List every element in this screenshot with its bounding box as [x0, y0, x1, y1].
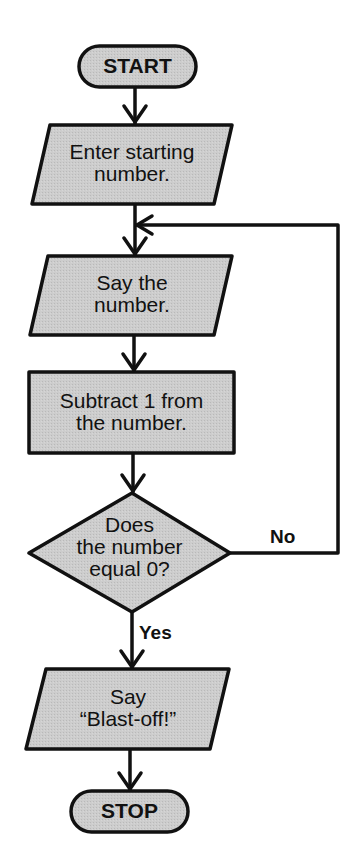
no-branch-label: No: [270, 527, 295, 547]
say-number-line-2: number.: [40, 294, 224, 316]
yes-branch-label: Yes: [139, 623, 172, 643]
subtract-line-1: Subtract 1 from: [29, 390, 234, 412]
enter-number-line-2: number.: [41, 163, 223, 185]
decision-label: Does the number equal 0?: [29, 514, 230, 580]
enter-number-label: Enter starting number.: [41, 141, 223, 185]
blastoff-line-2: “Blast-off!”: [37, 708, 219, 730]
enter-number-line-1: Enter starting: [41, 141, 223, 163]
say-number-label: Say the number.: [40, 272, 224, 316]
subtract-label: Subtract 1 from the number.: [29, 390, 234, 434]
start-text: START: [103, 54, 171, 77]
blastoff-line-1: Say: [37, 686, 219, 708]
stop-text: STOP: [101, 799, 158, 822]
say-number-line-1: Say the: [40, 272, 224, 294]
subtract-line-2: the number.: [29, 412, 234, 434]
decision-line-2: the number: [29, 536, 230, 558]
decision-line-3: equal 0?: [29, 558, 230, 580]
start-label: START: [79, 55, 196, 77]
decision-line-1: Does: [29, 514, 230, 536]
blastoff-label: Say “Blast-off!”: [37, 686, 219, 730]
stop-label: STOP: [71, 800, 188, 822]
